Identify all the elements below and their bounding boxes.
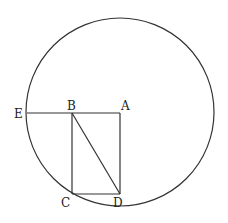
- label-b: B: [67, 99, 76, 113]
- geometry-diagram: E B A C D: [0, 0, 228, 223]
- segment-bd: [72, 113, 120, 194]
- label-e: E: [14, 107, 23, 121]
- label-c: C: [61, 196, 70, 210]
- label-a: A: [120, 99, 130, 113]
- label-d: D: [113, 196, 123, 210]
